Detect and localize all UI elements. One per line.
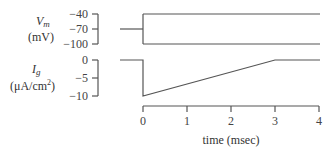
ig-tick-0: 0 — [82, 53, 88, 67]
x-axis-label: time (msec) — [203, 133, 260, 147]
gating-current-figure: −40 −70 −100 Vm (mV) 0 −5 −10 Ig (μA/cm2… — [0, 0, 334, 150]
time-tick-4: 4 — [316, 114, 322, 128]
ig-tick-minus10: −10 — [69, 89, 88, 103]
time-tick-0: 0 — [140, 114, 146, 128]
vm-tick-minus100: −100 — [63, 37, 88, 51]
time-tick-1: 1 — [184, 114, 190, 128]
vm-trace — [120, 14, 320, 44]
ig-axis — [92, 60, 98, 96]
vm-label: Vm — [36, 14, 50, 29]
vm-unit: (mV) — [28, 30, 54, 44]
time-tick-2: 2 — [228, 114, 234, 128]
vm-tick-minus40: −40 — [69, 7, 88, 21]
vm-tick-minus70: −70 — [69, 22, 88, 36]
time-axis — [143, 106, 319, 112]
ig-trace — [120, 60, 320, 96]
ig-tick-minus5: −5 — [75, 71, 88, 85]
time-tick-3: 3 — [272, 114, 278, 128]
ig-unit: (μA/cm2) — [10, 78, 55, 93]
vm-axis — [92, 14, 98, 44]
ig-label: Ig — [31, 62, 41, 77]
